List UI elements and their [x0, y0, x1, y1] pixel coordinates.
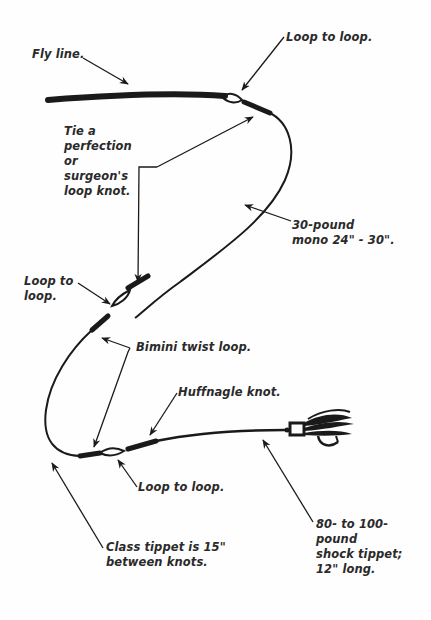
shock-tippet: [156, 430, 285, 441]
arrow-fly-line-icon: [83, 58, 128, 84]
label-huffnagle-knot: Huffnagle knot.: [178, 385, 281, 400]
loop-connection-left-icon: [112, 290, 130, 306]
label-shock-tippet: 80- to 100- pound shock tippet; 12" long…: [316, 517, 403, 577]
arrow-bimini-lower-icon: [94, 348, 130, 447]
perfection-knot-icon: [244, 102, 270, 113]
huffnagle-knot-icon: [128, 441, 156, 449]
label-tie-perfection-knot: Tie a perfection or surgeon's loop knot.: [64, 124, 132, 199]
arrow-loop-left-icon: [78, 283, 110, 304]
label-class-tippet: Class tippet is 15" between knots.: [106, 540, 226, 570]
arrow-shock-tippet-icon: [263, 440, 313, 522]
class-tippet: [45, 330, 92, 456]
bimini-knot-lower-icon: [80, 453, 100, 456]
arrow-class-tippet-icon: [52, 463, 103, 548]
arrow-perfection-left-icon: [138, 167, 157, 282]
fly-line: [48, 94, 225, 100]
mono-butt-section: [135, 112, 291, 318]
arrow-bimini-upper-icon: [102, 338, 130, 348]
bimini-knot-upper-icon: [92, 316, 108, 330]
label-loop-to-loop-left: Loop to loop.: [24, 274, 73, 304]
label-loop-to-loop-bottom: Loop to loop.: [138, 480, 224, 495]
streamer-fly-icon: [285, 410, 355, 445]
label-loop-to-loop-top: Loop to loop.: [286, 30, 372, 45]
arrow-loop-top-icon: [242, 37, 284, 90]
label-fly-line: Fly line.: [32, 47, 84, 62]
loop-connection-bottom-icon: [100, 448, 124, 455]
leader-diagram: Fly line. Loop to loop. Tie a perfection…: [0, 0, 431, 620]
arrow-loop-bottom-icon: [118, 460, 137, 487]
arrow-perfection-top-icon: [157, 117, 253, 167]
label-mono-butt: 30-pound mono 24" - 30".: [292, 218, 395, 248]
arrow-huffnagle-icon: [150, 393, 177, 435]
label-bimini-twist-loop: Bimini twist loop.: [136, 340, 251, 355]
